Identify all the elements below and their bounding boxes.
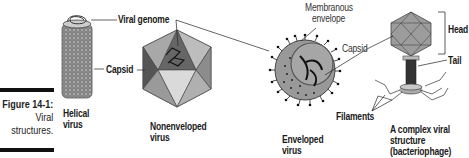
label-head: Head [448,24,468,35]
caption-bottom-rule [0,148,54,152]
figure-number: Figure 14-1: [2,98,53,111]
label-membranous-envelope-2: envelope [312,13,345,24]
caption-line-2: structures. [2,124,53,137]
figure-caption: Figure 14-1: Viral structures. [2,98,53,137]
viral-structures-figure: Figure 14-1: Viral structures. Viral gen… [0,0,469,158]
label-viral-genome: Viral genome [118,14,169,25]
virus-type-helical: Helical virus [63,108,89,130]
label-tail: Tail [448,55,461,66]
label-capsid-right: Capsid [342,43,367,54]
virus-type-bacteriophage: A complex viral structure (bacteriophage… [390,124,451,157]
label-filaments: Filaments [336,111,374,122]
bacteriophage-icon [375,12,448,100]
virus-type-nonenveloped: Nonenveloped virus [150,121,207,143]
enveloped-virus-icon [269,34,342,107]
label-membranous-envelope-1: Membranous [305,2,353,13]
label-capsid-left: Capsid [106,64,133,75]
virus-type-enveloped: Enveloped virus [282,134,323,156]
helical-virus-icon [62,16,92,98]
caption-line-1: Viral [2,111,53,124]
nonenveloped-virus-icon [143,30,211,107]
caption-top-rule [0,88,54,92]
